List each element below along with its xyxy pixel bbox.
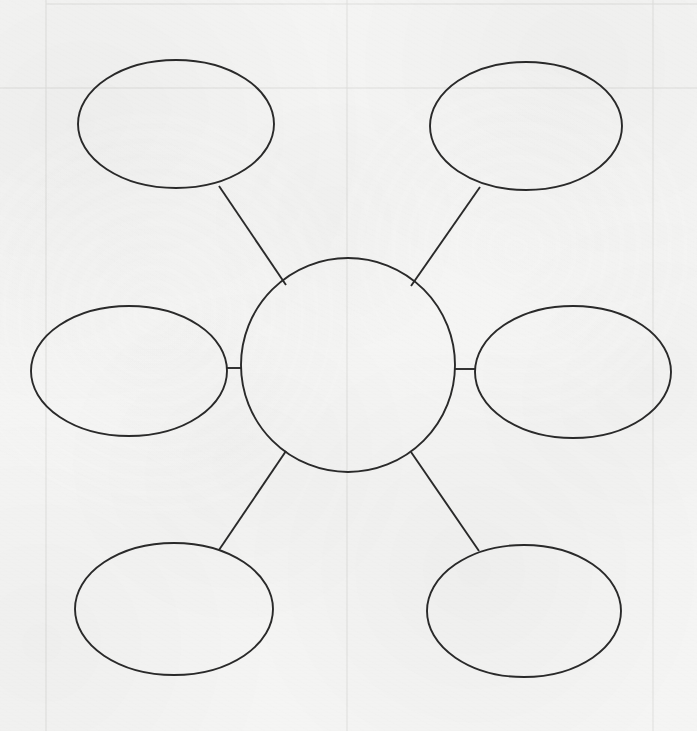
connector-bottom-right — [411, 452, 479, 551]
connectors-group — [219, 186, 480, 551]
guide-lines-group — [0, 0, 697, 731]
connector-top-left — [219, 186, 286, 285]
node-middle-right[interactable] — [475, 306, 671, 438]
connector-bottom-left — [219, 451, 286, 550]
nodes-group — [31, 60, 671, 677]
worksheet-page — [0, 0, 697, 731]
concept-web-diagram — [0, 0, 697, 731]
node-bottom-left[interactable] — [75, 543, 273, 675]
node-top-left[interactable] — [78, 60, 274, 188]
node-middle-left[interactable] — [31, 306, 227, 436]
connector-top-right — [411, 187, 480, 286]
center-node[interactable] — [241, 258, 455, 472]
node-bottom-right[interactable] — [427, 545, 621, 677]
node-top-right[interactable] — [430, 62, 622, 190]
